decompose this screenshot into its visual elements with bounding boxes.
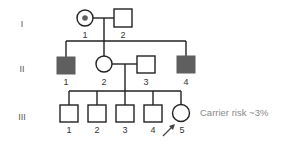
- male-symbol: [60, 105, 78, 122]
- generation-II: 1 2 3 4: [57, 56, 195, 91]
- individual-id: 2: [101, 77, 106, 87]
- individual-id: 3: [122, 125, 127, 135]
- individual-II-1: 1: [57, 57, 75, 87]
- male-symbol: [137, 56, 155, 73]
- male-symbol: [88, 105, 106, 122]
- pedigree-chart: I II III 1 2 1 2 3: [0, 0, 291, 145]
- generation-III: 1 2 3 4 5: [60, 105, 190, 137]
- affected-male-symbol: [57, 57, 75, 74]
- male-symbol: [116, 105, 134, 122]
- individual-id: 4: [183, 77, 188, 87]
- individual-I-1: 1: [77, 10, 93, 40]
- individual-III-5-proband: 5: [163, 105, 190, 137]
- individual-III-4: 4: [144, 105, 162, 135]
- individual-id: 1: [63, 77, 68, 87]
- proband-note: Carrier risk ~3%: [200, 107, 269, 118]
- generation-label-II: II: [19, 64, 24, 74]
- individual-id: 3: [143, 77, 148, 87]
- individual-III-2: 2: [88, 105, 106, 135]
- individual-II-2: 2: [96, 56, 112, 87]
- individual-I-2: 2: [114, 9, 132, 40]
- individual-II-4: 4: [177, 56, 195, 87]
- female-symbol: [96, 56, 112, 72]
- carrier-dot-icon: [82, 15, 88, 21]
- individual-II-3: 3: [137, 56, 155, 87]
- male-symbol: [144, 105, 162, 122]
- generation-I: 1 2: [77, 9, 132, 41]
- individual-III-3: 3: [116, 105, 134, 135]
- generation-label-I: I: [21, 19, 24, 29]
- arrow-icon: [163, 124, 175, 136]
- individual-id: 2: [120, 30, 125, 40]
- individual-id: 1: [66, 125, 71, 135]
- individual-III-1: 1: [60, 105, 78, 135]
- male-symbol: [114, 9, 132, 27]
- individual-id: 2: [94, 125, 99, 135]
- individual-id: 4: [150, 125, 155, 135]
- individual-id: 1: [82, 30, 87, 40]
- affected-male-symbol: [177, 56, 195, 73]
- generation-label-III: III: [18, 112, 26, 122]
- female-symbol: [173, 105, 190, 122]
- individual-id: 5: [179, 125, 184, 135]
